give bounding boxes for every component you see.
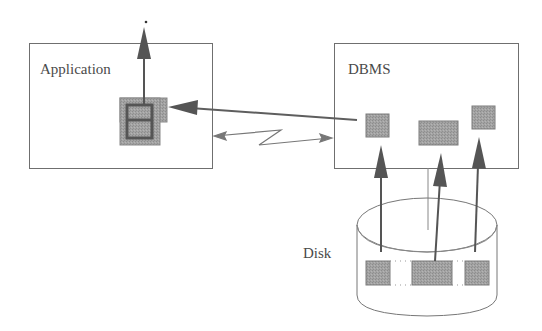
disk-block-3 [465, 261, 489, 285]
dbms-label: DBMS [348, 62, 391, 77]
fetch-arrow [168, 100, 357, 120]
disk-label: Disk [303, 246, 331, 261]
application-label: Application [40, 62, 111, 77]
output-arrow [137, 21, 151, 105]
application-buffer-block [120, 98, 167, 145]
dbms-block-2 [419, 121, 458, 145]
dbms-block-3 [472, 106, 495, 129]
diagram-canvas [0, 0, 542, 331]
dbms-block-1 [366, 114, 389, 137]
read-arrow-2 [433, 153, 447, 261]
read-arrow-3 [472, 137, 486, 252]
disk-block-2 [412, 261, 452, 285]
disk-block-1 [366, 261, 390, 285]
network-link [214, 130, 332, 145]
read-arrow-1 [374, 145, 388, 252]
